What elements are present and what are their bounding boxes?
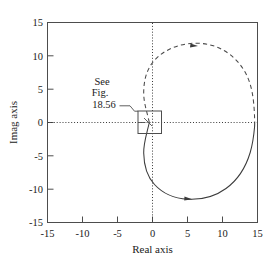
annotation-line-2: Fig. <box>92 87 109 98</box>
inset-annotation-text: See Fig. 18.56 <box>92 76 116 110</box>
y-tick-label: 15 <box>33 17 44 28</box>
x-tick-label: -5 <box>113 228 122 239</box>
y-tick-label: 10 <box>33 51 44 62</box>
y-tick-labels: 15 10 5 0 -5 -10 -15 <box>29 17 43 228</box>
annotation-line-1: See <box>94 76 110 87</box>
y-tick-label: 5 <box>38 84 43 95</box>
x-tick-label: -15 <box>41 228 55 239</box>
y-tick-label: -5 <box>34 151 43 162</box>
direction-arrow-upper <box>190 44 198 48</box>
y-tick-label: -10 <box>29 184 43 195</box>
y-axis-title: Imag axis <box>7 101 19 144</box>
y-tick-label: 0 <box>38 117 43 128</box>
x-tick-label: 10 <box>217 228 228 239</box>
x-tick-label: 15 <box>252 228 263 239</box>
x-tick-label: 0 <box>150 228 155 239</box>
direction-arrow-lower <box>184 197 192 201</box>
nyquist-curve-lower <box>144 123 255 201</box>
plot-canvas: 15 10 5 0 -5 -10 -15 -15 -10 -5 0 5 10 1… <box>0 0 276 266</box>
x-tick-label: 5 <box>185 228 190 239</box>
x-tick-labels: -15 -10 -5 0 5 10 15 <box>41 228 263 239</box>
nyquist-plot-figure: 15 10 5 0 -5 -10 -15 -15 -10 -5 0 5 10 1… <box>0 0 276 266</box>
x-tick-label: -10 <box>76 228 90 239</box>
zero-reference-lines <box>48 23 257 222</box>
annotation-line-3: 18.56 <box>92 99 116 110</box>
x-axis-title: Real axis <box>132 243 173 255</box>
